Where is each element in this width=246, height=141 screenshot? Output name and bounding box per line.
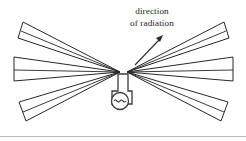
left-lobe-group	[14, 22, 120, 121]
radiation-pattern-svg: direction of radiation	[0, 0, 246, 141]
right-lobe-group	[127, 22, 233, 121]
radiation-pattern-figure: direction of radiation	[0, 0, 246, 141]
annotation-line-2: of radiation	[130, 18, 174, 28]
feed-and-source-group	[112, 74, 133, 110]
arrow-head-icon	[156, 35, 163, 42]
annotation-line-1: direction	[135, 6, 169, 16]
